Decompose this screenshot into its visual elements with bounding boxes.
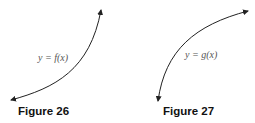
caption-figure-26: Figure 26 [18,105,69,117]
label-g: y = g(x) [185,49,217,60]
label-f: y = f(x) [38,52,68,63]
caption-figure-27: Figure 27 [163,105,214,117]
